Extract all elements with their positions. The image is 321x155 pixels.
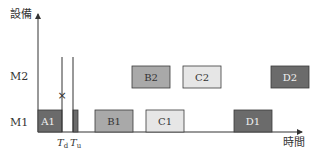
tu-label: Tu xyxy=(70,137,82,150)
row-label-m2: M2 xyxy=(10,70,28,83)
task-a1: A1 xyxy=(38,110,62,132)
task-c2: C2 xyxy=(183,66,221,88)
task-label-d1: D1 xyxy=(246,116,260,127)
task-label-b1: B1 xyxy=(107,116,121,127)
task-d1: D1 xyxy=(234,110,272,132)
task-label-c2: C2 xyxy=(195,72,209,83)
task-b1: B1 xyxy=(95,110,133,132)
task-label-d2: D2 xyxy=(283,72,297,83)
x-axis-label: 時間 xyxy=(283,136,305,149)
task-c1: C1 xyxy=(146,110,184,132)
row-label-m1: M1 xyxy=(10,116,28,129)
task-boxes: A1B1C1D1B2C2D2 xyxy=(38,66,309,132)
failure-marker-icon: × xyxy=(57,89,66,102)
td-label-sub: d xyxy=(64,142,69,150)
td-label: Td xyxy=(57,137,69,150)
schedule-diagram: 設備 時間 M2 M1 A1B1C1D1B2C2D2 × Td Tu xyxy=(0,0,321,155)
task-label-c1: C1 xyxy=(158,116,172,127)
y-axis-label: 設備 xyxy=(10,7,32,21)
task-label-a1: A1 xyxy=(40,116,55,127)
tu-label-sub: u xyxy=(77,142,82,150)
task-d2: D2 xyxy=(271,66,309,88)
task-label-b2: B2 xyxy=(144,72,158,83)
task-b2: B2 xyxy=(132,66,170,88)
a1-resumed-block xyxy=(73,110,78,132)
